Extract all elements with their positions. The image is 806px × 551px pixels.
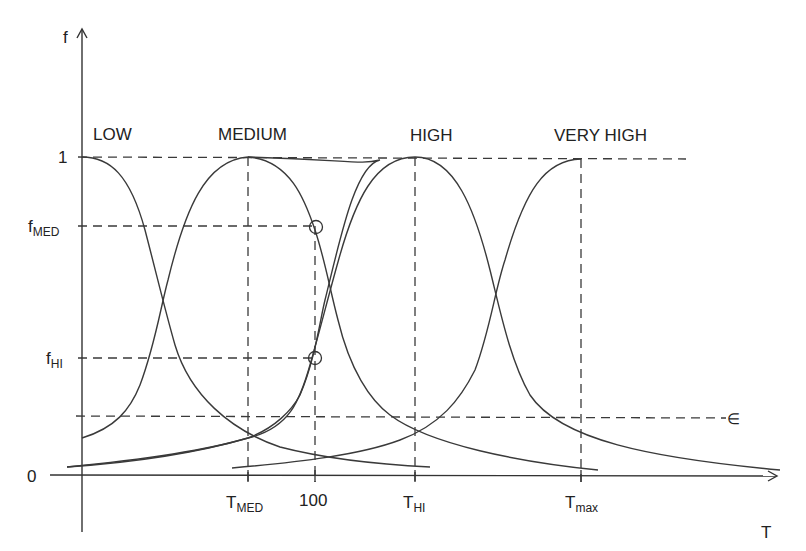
curve-very-high	[232, 159, 581, 468]
fuzzy-membership-diagram: f T LOW MEDIUM HIGH VERY HIGH 1 fMED fHI…	[0, 0, 806, 551]
x-tick-tmax: Tmax	[565, 493, 598, 515]
curve-medium-right	[248, 157, 598, 470]
set-label-high: HIGH	[410, 126, 453, 145]
set-label-very-high: VERY HIGH	[554, 126, 647, 145]
x-tick-tmed: TMED	[226, 493, 263, 515]
y-tick-fmed: fMED	[28, 217, 60, 239]
set-label-medium: MEDIUM	[218, 125, 287, 144]
epsilon-dashed-line	[76, 416, 726, 418]
set-label-low: LOW	[93, 125, 132, 144]
curve-medium	[67, 157, 380, 467]
y-tick-fhi: fHI	[46, 349, 63, 371]
curve-low	[82, 157, 430, 467]
y-tick-1: 1	[58, 148, 67, 167]
x-axis	[50, 475, 776, 476]
curve-high-right	[415, 157, 780, 470]
y-axis-label: f	[63, 28, 68, 47]
x-tick-100: 100	[299, 491, 327, 510]
epsilon-label: ∈	[727, 410, 740, 427]
y-tick-0: 0	[27, 467, 36, 486]
curve-high-left	[67, 157, 415, 467]
x-tick-thi: THI	[403, 493, 425, 515]
one-level-dashed-line	[78, 157, 686, 159]
x-axis-label: T	[761, 523, 771, 542]
curve-medium-left	[82, 157, 248, 438]
